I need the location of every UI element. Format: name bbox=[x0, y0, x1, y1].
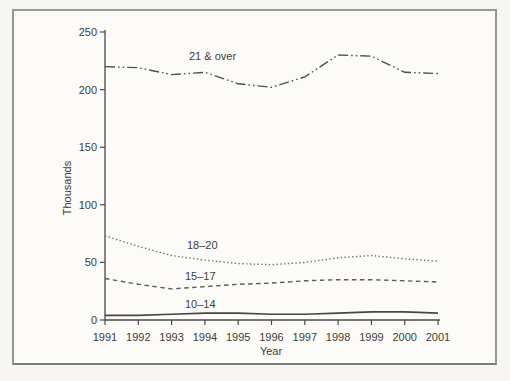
line-chart: 0501001502002501991199219931994199519961… bbox=[0, 0, 510, 381]
y-tick-label: 150 bbox=[79, 141, 97, 153]
y-tick-label: 200 bbox=[79, 84, 97, 96]
series-line-1 bbox=[105, 236, 438, 265]
x-axis-title: Year bbox=[260, 345, 282, 357]
series-line-2 bbox=[105, 279, 438, 289]
x-tick-label: 1996 bbox=[259, 331, 283, 343]
y-tick-label: 100 bbox=[79, 199, 97, 211]
series-label-18-20: 18–20 bbox=[187, 239, 218, 251]
y-tick-label: 0 bbox=[91, 314, 97, 326]
x-tick-label: 2000 bbox=[392, 331, 416, 343]
x-tick-label: 1997 bbox=[293, 331, 317, 343]
y-axis-title: Thousands bbox=[61, 161, 73, 215]
figure-page: 0501001502002501991199219931994199519961… bbox=[0, 0, 510, 381]
series-label-15-17: 15–17 bbox=[185, 270, 216, 282]
series-label-21-and-over: 21 & over bbox=[189, 50, 236, 62]
series-line-0 bbox=[105, 55, 438, 87]
x-tick-label: 1992 bbox=[126, 331, 150, 343]
x-tick-label: 1991 bbox=[93, 331, 117, 343]
x-tick-label: 2001 bbox=[426, 331, 450, 343]
x-tick-label: 1998 bbox=[326, 331, 350, 343]
series-label-10-14: 10–14 bbox=[185, 298, 216, 310]
x-tick-label: 1995 bbox=[226, 331, 250, 343]
series-line-3 bbox=[105, 312, 438, 316]
y-tick-label: 250 bbox=[79, 26, 97, 38]
x-tick-label: 1993 bbox=[159, 331, 183, 343]
x-tick-label: 1994 bbox=[193, 331, 217, 343]
y-tick-label: 50 bbox=[85, 256, 97, 268]
x-tick-label: 1999 bbox=[359, 331, 383, 343]
